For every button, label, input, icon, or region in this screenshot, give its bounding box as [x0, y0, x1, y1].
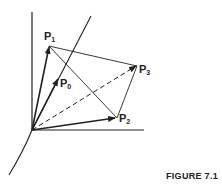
label-p3: P3 — [139, 63, 150, 76]
figure-caption: FIGURE 7.1 — [166, 171, 218, 181]
edge-p2-p3 — [117, 66, 137, 118]
label-p2: P2 — [119, 112, 130, 125]
label-p1: P1 — [44, 30, 55, 43]
vector-p2 — [32, 118, 115, 130]
label-p0: P0 — [60, 77, 71, 90]
vector-p0 — [32, 79, 58, 130]
vector-diagram: P1 P0 P3 P2 — [0, 0, 222, 188]
vector-p1 — [32, 47, 49, 130]
edge-p1-p3 — [49, 46, 137, 66]
